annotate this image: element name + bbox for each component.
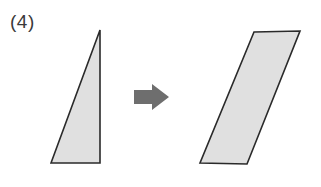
source-triangle-shape [51,30,100,163]
target-parallelogram-shape [200,31,300,164]
right-arrow-icon [134,84,169,110]
figure-canvas: (4) [0,0,321,187]
shape-transformation-diagram [0,0,321,187]
